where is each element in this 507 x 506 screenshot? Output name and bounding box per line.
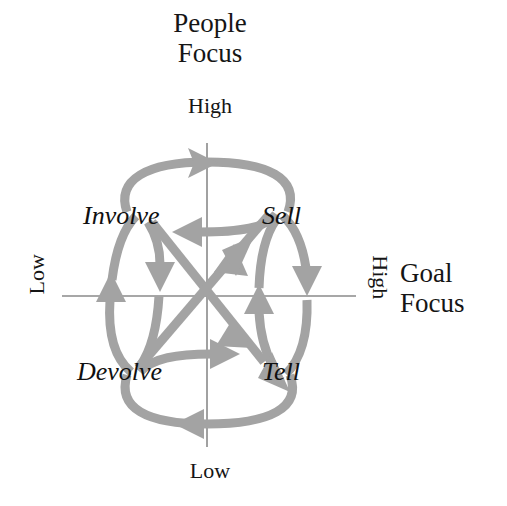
diagram-canvas: .ar { fill: none; stroke: #a3a3a3; strok… xyxy=(0,0,507,506)
quadrant-label-sell: Sell xyxy=(262,201,301,231)
arrowhead-rightinner-up xyxy=(244,284,274,314)
arrowhead-left-up xyxy=(96,272,126,302)
arrowhead-right-down xyxy=(292,266,322,296)
quadrant-label-tell: Tell xyxy=(262,357,300,387)
arrowhead-bottom-left xyxy=(174,409,204,439)
quadrant-label-involve: Involve xyxy=(83,201,160,231)
arc-left-outer xyxy=(96,216,136,372)
arrowhead-topinner-left xyxy=(172,217,202,247)
arc-right-outer xyxy=(283,216,322,374)
quadrant-label-devolve: Devolve xyxy=(77,357,162,387)
arrowhead-leftinner-down xyxy=(145,262,175,292)
arrow-network: .ar { fill: none; stroke: #a3a3a3; strok… xyxy=(0,0,507,506)
